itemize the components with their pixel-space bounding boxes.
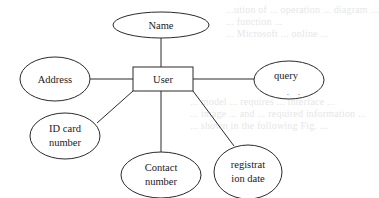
entity-user: User [133,67,193,91]
attribute-registration-date: registrat ion date [214,145,282,198]
attribute-contact-label-line1: Contact [145,162,178,173]
attribute-name-label: Name [148,20,173,31]
attribute-name: Name [113,12,209,38]
attribute-contact-number: Contact number [121,152,201,198]
attribute-query-label-line1: query [274,70,299,81]
attribute-registration-label-line1: registrat [231,159,265,170]
attribute-id-card-label-line2: number [49,137,82,148]
edge-user-registration [193,91,234,146]
attribute-registration-label-line2: ion date [231,173,265,184]
edge-user-id-card [97,91,133,123]
attribute-id-card-label-line1: ID card [49,123,82,134]
attribute-query-content: query content [254,61,324,101]
attribute-address: Address [20,57,90,101]
attribute-id-card-number: ID card number [30,113,100,159]
attribute-contact-label-line2: number [145,176,178,187]
entity-user-label: User [153,74,173,85]
attribute-address-label: Address [38,74,72,85]
